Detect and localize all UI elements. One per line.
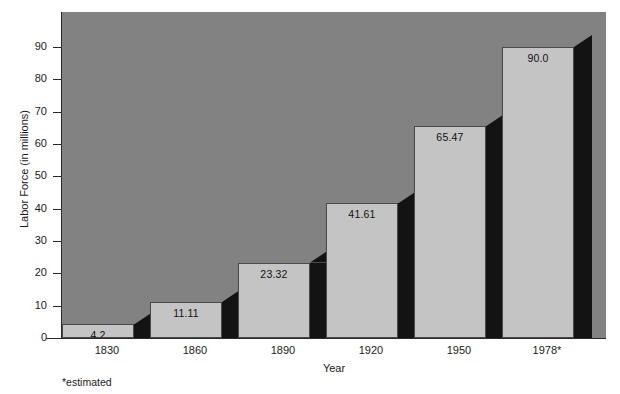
y-axis-tick: 10 [0, 306, 61, 307]
x-tick-label: 1978* [502, 344, 592, 356]
bar-front-face[interactable] [502, 47, 574, 338]
y-axis-tick: 90 [0, 47, 61, 48]
x-tick-label: 1950 [414, 344, 504, 356]
bar-group: 65.47 [414, 114, 504, 338]
y-tick-mark [53, 144, 61, 145]
bar-value-label: 4.2 [62, 329, 134, 338]
y-tick-label: 50 [35, 169, 47, 181]
y-tick-mark [53, 209, 61, 210]
y-tick-label: 80 [35, 72, 47, 84]
y-tick-label: 30 [35, 234, 47, 246]
bar-value-label: 23.32 [238, 268, 310, 280]
x-tick-label: 1860 [150, 344, 240, 356]
y-tick-mark [53, 79, 61, 80]
y-axis-tick: 40 [0, 209, 61, 210]
y-axis-line [61, 12, 62, 339]
bar-group: 11.11 [150, 290, 240, 338]
x-tick-label: 1830 [62, 344, 152, 356]
bar-group: 90.0 [502, 35, 592, 338]
bar-chart: 4.211.1123.3241.6165.4790.0 010203040506… [0, 0, 620, 394]
y-tick-label: 10 [35, 299, 47, 311]
x-axis-title: Year [62, 362, 606, 374]
bar-front-face[interactable] [326, 203, 398, 338]
bar-value-label: 90.0 [502, 52, 574, 64]
y-axis-tick: 30 [0, 241, 61, 242]
bar-value-label: 65.47 [414, 131, 486, 143]
y-tick-mark [53, 273, 61, 274]
y-tick-label: 90 [35, 40, 47, 52]
y-axis-tick: 50 [0, 176, 61, 177]
bar-side-face [574, 47, 592, 338]
y-tick-label: 40 [35, 202, 47, 214]
x-tick-label: 1920 [326, 344, 416, 356]
y-tick-label: 20 [35, 266, 47, 278]
bar-value-label: 41.61 [326, 208, 398, 220]
y-tick-mark [53, 112, 61, 113]
y-axis-tick: 70 [0, 112, 61, 113]
bar-group: 4.2 [62, 312, 152, 338]
x-axis-line [46, 338, 606, 339]
bar-group: 41.61 [326, 191, 416, 338]
y-axis-tick: 80 [0, 79, 61, 80]
y-tick-label: 60 [35, 137, 47, 149]
y-tick-mark [53, 176, 61, 177]
y-tick-mark [53, 47, 61, 48]
y-axis-tick: 20 [0, 273, 61, 274]
y-axis-tick: 60 [0, 144, 61, 145]
y-tick-label: 0 [41, 331, 47, 343]
y-tick-mark [53, 338, 61, 339]
y-tick-mark [53, 306, 61, 307]
y-tick-mark [53, 241, 61, 242]
bar-top-face [574, 35, 592, 47]
bar-group: 23.32 [238, 251, 328, 338]
bar-front-face[interactable] [414, 126, 486, 338]
y-axis-title: Labor Force (in millions) [18, 59, 30, 279]
x-tick-label: 1890 [238, 344, 328, 356]
bar-value-label: 11.11 [150, 307, 222, 319]
y-axis-tick: 0 [0, 338, 61, 339]
chart-footnote: *estimated [62, 376, 112, 388]
plot-area: 4.211.1123.3241.6165.4790.0 [62, 12, 606, 338]
y-tick-label: 70 [35, 105, 47, 117]
